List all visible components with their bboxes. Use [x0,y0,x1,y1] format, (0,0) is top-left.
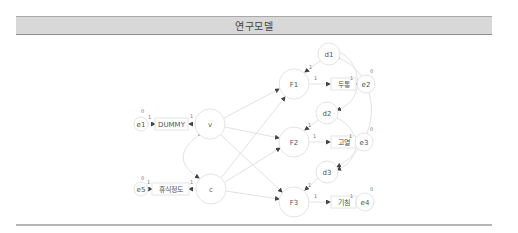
variance-e1: 0 [141,108,144,114]
bottom-divider [16,224,492,226]
node-label-d2: d2 [323,110,332,118]
variance-e2: 0 [370,68,373,74]
variance-e4: 0 [370,186,373,192]
variance-e5: 0 [141,175,144,181]
node-label-fever: 고열 [338,139,350,147]
node-label-e4: e4 [361,199,370,207]
node-f1: F1 [279,69,309,99]
weight-e5: 1 [147,179,150,185]
node-f3: F3 [279,187,309,217]
loading-rest: 1 [190,179,193,185]
covariance-v-c [183,135,199,178]
path-d3-f3 [305,178,318,190]
node-label-f2: F2 [290,139,298,147]
weight-d1: 1 [309,64,312,70]
weight-e3: 1 [349,133,352,139]
node-label-d3: d3 [323,169,332,177]
weight-e4: 1 [350,193,353,199]
node-label-e1: e1 [137,121,146,129]
loading-cough: 1 [314,193,317,199]
path-d2-f2 [305,120,318,130]
node-f2: F2 [279,127,309,157]
node-rest: 휴식정도 1 [152,179,193,195]
node-label-v: v [208,121,212,129]
variance-e3: 0 [370,126,373,132]
weight-d2: 1 [308,122,311,128]
loading-fever: 1 [313,133,316,139]
node-label-e5: e5 [137,186,146,194]
node-v: v [195,109,225,139]
node-dummy: DUMMY 1 [155,113,193,130]
node-d1: d1 [318,43,340,65]
node-d3: d3 [316,161,338,183]
node-label-e3: e3 [360,139,369,147]
node-e1: e1 0 1 [134,108,151,131]
node-label-headache: 두통 [338,81,351,89]
structural-paths [221,89,285,199]
weight-e2: 1 [350,75,353,81]
node-c: c [196,174,226,204]
path-diagram: v c F1 F2 F3 d1 d2 d3 1 1 1 DUMMY 1 휴식정도 [0,0,518,233]
path-v-f3 [221,135,282,192]
loading-dummy: 1 [190,113,193,119]
path-c-f2 [225,148,280,182]
path-d1-f1 [305,61,320,72]
node-label-e2: e2 [362,81,371,89]
loading-headache: 1 [314,75,317,81]
node-d2: d2 [316,102,338,124]
path-v-f2 [225,127,279,138]
node-label-c: c [209,186,213,194]
weight-d3: 1 [308,182,311,188]
path-c-f3 [226,191,279,199]
node-e5: e5 0 1 [134,175,150,196]
node-label-f3: F3 [290,199,298,207]
node-label-dummy: DUMMY [158,121,186,129]
node-label-rest: 휴식정도 [159,185,184,194]
weight-e1: 1 [148,114,151,120]
node-label-d1: d1 [325,51,334,59]
node-label-cough: 기침 [338,198,350,207]
node-label-f1: F1 [290,81,298,89]
path-v-f1 [224,89,279,118]
